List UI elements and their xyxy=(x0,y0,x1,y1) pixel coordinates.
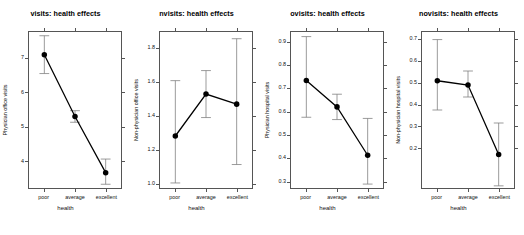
y-tick-mark-right xyxy=(384,158,387,159)
y-tick-label: 1.6 xyxy=(133,79,155,84)
y-tick-label: 1.2 xyxy=(133,147,155,152)
plot-area xyxy=(421,31,515,189)
y-tick-mark xyxy=(25,58,28,59)
y-tick-mark-right xyxy=(515,61,518,62)
x-tick-mark-top xyxy=(206,28,207,31)
panel-title: novisits: health effects xyxy=(393,9,524,18)
panel-title: ovisits: health effects xyxy=(262,9,393,18)
plot-panel-novisits: novisits: health effects Non-physician h… xyxy=(393,0,524,235)
data-point xyxy=(496,152,501,158)
y-tick-label: 0.4 xyxy=(395,102,417,107)
y-tick-label: 0.5 xyxy=(264,132,286,137)
data-point xyxy=(365,153,370,159)
x-tick-label: poor xyxy=(38,194,49,200)
x-tick-mark-top xyxy=(175,28,176,31)
y-tick-mark-right xyxy=(515,39,518,40)
x-tick-mark-top xyxy=(44,28,45,31)
y-tick-label: 0.9 xyxy=(264,39,286,44)
x-tick-mark xyxy=(75,189,76,192)
y-tick-label: 0.7 xyxy=(395,36,417,41)
series-layer xyxy=(291,32,383,188)
x-tick-mark-top xyxy=(337,28,338,31)
y-tick-label: 7 xyxy=(2,55,24,60)
data-point xyxy=(435,78,440,84)
y-tick-label: 5 xyxy=(2,124,24,129)
y-tick-mark xyxy=(418,148,421,149)
y-tick-mark-right xyxy=(122,127,125,128)
x-tick-label: average xyxy=(327,194,346,200)
error-bar xyxy=(363,118,373,184)
y-tick-mark-right xyxy=(515,105,518,106)
y-tick-mark-right xyxy=(515,148,518,149)
y-tick-mark-right xyxy=(122,161,125,162)
x-axis-label: health xyxy=(0,205,131,211)
y-tick-mark-right xyxy=(515,83,518,84)
plot-area xyxy=(290,31,384,189)
plot-panel-ovisits: ovisits: health effects Physician hospit… xyxy=(262,0,393,235)
plot-area xyxy=(159,31,253,189)
plot-area xyxy=(28,31,122,189)
x-tick-mark xyxy=(306,189,307,192)
data-point xyxy=(304,78,309,84)
y-tick-label: 0.4 xyxy=(264,155,286,160)
y-tick-mark xyxy=(156,150,159,151)
panel-title: visits: health effects xyxy=(0,9,131,18)
x-tick-label: poor xyxy=(169,194,180,200)
y-tick-mark-right xyxy=(253,82,256,83)
y-tick-mark xyxy=(25,92,28,93)
x-tick-mark-top xyxy=(106,28,107,31)
y-tick-label: 0.3 xyxy=(264,179,286,184)
data-point xyxy=(203,91,208,97)
x-tick-mark xyxy=(44,189,45,192)
y-tick-mark-right xyxy=(384,112,387,113)
y-tick-mark xyxy=(287,88,290,89)
y-tick-mark-right xyxy=(384,135,387,136)
y-tick-mark xyxy=(156,184,159,185)
x-tick-label: excellent xyxy=(358,194,379,200)
y-tick-label: 6 xyxy=(2,90,24,95)
x-tick-mark-top xyxy=(237,28,238,31)
x-axis-label: health xyxy=(131,205,262,211)
data-point xyxy=(103,170,108,176)
y-tick-label: 0.6 xyxy=(395,58,417,63)
x-axis-label: health xyxy=(393,205,524,211)
x-tick-mark xyxy=(206,189,207,192)
x-tick-mark xyxy=(337,189,338,192)
y-tick-mark xyxy=(418,39,421,40)
y-tick-mark xyxy=(25,127,28,128)
y-tick-mark xyxy=(156,48,159,49)
y-tick-mark xyxy=(418,105,421,106)
y-tick-mark xyxy=(287,65,290,66)
y-tick-mark xyxy=(418,83,421,84)
y-tick-mark-right xyxy=(384,88,387,89)
x-tick-mark xyxy=(437,189,438,192)
data-point xyxy=(234,101,239,107)
x-tick-mark xyxy=(237,189,238,192)
y-tick-mark-right xyxy=(253,184,256,185)
x-tick-label: average xyxy=(458,194,477,200)
y-tick-label: 0.3 xyxy=(395,124,417,129)
x-tick-mark xyxy=(175,189,176,192)
y-tick-mark-right xyxy=(253,116,256,117)
series-layer xyxy=(160,32,252,188)
x-tick-label: excellent xyxy=(96,194,117,200)
x-tick-mark-top xyxy=(499,28,500,31)
x-axis-label: health xyxy=(262,205,393,211)
x-tick-mark xyxy=(368,189,369,192)
y-tick-mark-right xyxy=(253,48,256,49)
plot-panel-nvisits: nvisits: health effects Non-physician of… xyxy=(131,0,262,235)
y-tick-mark xyxy=(418,61,421,62)
panel-title: nvisits: health effects xyxy=(131,9,262,18)
x-tick-mark-top xyxy=(75,28,76,31)
y-tick-mark-right xyxy=(515,126,518,127)
series-layer xyxy=(422,32,514,188)
y-tick-label: 1.0 xyxy=(133,181,155,186)
error-bar xyxy=(432,40,442,110)
y-tick-mark xyxy=(287,112,290,113)
data-point xyxy=(465,82,470,88)
error-bar xyxy=(301,37,311,118)
multi-panel-figure: visits: health effects Physician office … xyxy=(0,0,524,235)
y-tick-mark xyxy=(156,82,159,83)
x-tick-mark-top xyxy=(368,28,369,31)
x-tick-label: poor xyxy=(300,194,311,200)
